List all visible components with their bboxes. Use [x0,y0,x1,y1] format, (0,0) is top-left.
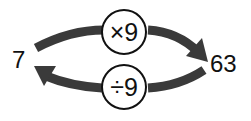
inverse-operation-circle: ÷9 [101,64,147,110]
forward-operation-label: ×9 [110,18,139,47]
forward-operation-circle: ×9 [101,9,147,55]
right-value: 63 [210,52,237,76]
inverse-operation-label: ÷9 [110,73,138,102]
left-value: 7 [12,48,25,72]
